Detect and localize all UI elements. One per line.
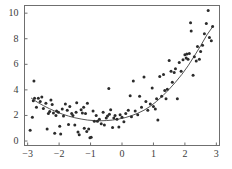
data-point — [152, 105, 155, 108]
data-point — [196, 45, 199, 48]
data-point — [211, 25, 214, 28]
data-point — [151, 86, 154, 89]
data-point — [39, 100, 42, 103]
data-point — [85, 130, 88, 133]
figure: −3−2−10123 0246810 — [0, 0, 232, 169]
data-point — [154, 108, 157, 111]
data-point — [75, 111, 78, 114]
data-point — [198, 58, 201, 61]
data-point — [67, 123, 70, 126]
data-point — [107, 87, 110, 90]
data-point — [68, 105, 71, 108]
data-point — [146, 109, 149, 112]
x-tick-label: −1 — [79, 149, 103, 159]
data-point — [102, 111, 105, 114]
data-point — [178, 61, 181, 64]
data-point — [95, 114, 98, 117]
data-point — [112, 117, 115, 120]
data-point — [37, 97, 40, 100]
data-point — [170, 70, 173, 73]
data-point — [66, 109, 69, 112]
data-point — [122, 120, 125, 123]
data-point — [87, 127, 90, 130]
data-point — [76, 131, 79, 134]
data-point — [57, 111, 60, 114]
data-point — [195, 60, 198, 63]
data-point — [92, 109, 95, 112]
y-tick-label: 6 — [0, 59, 19, 69]
data-point — [84, 112, 87, 115]
x-tick-label: −2 — [47, 149, 71, 159]
data-point — [124, 112, 127, 115]
data-point — [31, 116, 34, 119]
data-point — [40, 95, 43, 98]
y-tick-label: 2 — [0, 110, 19, 120]
data-point — [98, 118, 101, 121]
data-point — [117, 125, 120, 128]
x-tick-label: 0 — [110, 149, 134, 159]
data-point — [173, 71, 176, 74]
data-point — [185, 53, 188, 56]
y-tick-label: 4 — [0, 85, 19, 95]
y-tick-label: 0 — [0, 136, 19, 146]
data-point — [48, 110, 51, 113]
data-point — [81, 111, 84, 114]
data-point — [193, 55, 196, 58]
x-tick-label: 1 — [141, 149, 165, 159]
data-point — [208, 36, 211, 39]
data-point — [201, 44, 204, 47]
data-point — [53, 132, 56, 135]
data-point — [80, 108, 83, 111]
data-point — [121, 116, 124, 119]
data-point — [127, 109, 130, 112]
data-point — [166, 88, 169, 91]
data-point — [180, 70, 183, 73]
data-point — [90, 136, 93, 139]
data-point — [51, 103, 54, 106]
plot-frame — [25, 6, 220, 146]
data-point — [149, 102, 152, 105]
data-point — [136, 113, 139, 116]
data-point — [138, 95, 141, 98]
data-point — [210, 39, 213, 42]
data-point — [158, 75, 161, 78]
data-point — [33, 97, 36, 100]
data-point — [52, 111, 55, 114]
data-point — [199, 50, 202, 53]
data-point — [86, 102, 89, 105]
data-point — [73, 124, 76, 127]
data-point — [155, 97, 158, 100]
data-point — [111, 126, 114, 129]
data-point — [143, 76, 146, 79]
data-point — [100, 122, 103, 125]
data-point — [203, 32, 206, 35]
data-point — [103, 124, 106, 127]
scatter-plot — [0, 0, 232, 169]
data-point — [119, 113, 122, 116]
data-point — [132, 79, 135, 82]
x-tick-label: 3 — [204, 149, 228, 159]
data-point — [160, 95, 163, 98]
data-point — [59, 132, 62, 135]
data-point — [58, 125, 61, 128]
data-point — [82, 106, 85, 109]
data-point — [32, 99, 35, 102]
data-point — [156, 118, 159, 121]
data-point — [188, 52, 191, 55]
data-point — [44, 102, 47, 105]
data-point — [187, 58, 190, 61]
data-point — [64, 102, 67, 105]
data-point — [109, 108, 112, 111]
x-tick-label: −3 — [16, 149, 40, 159]
data-point — [129, 94, 132, 97]
data-point — [83, 127, 86, 130]
data-point — [71, 114, 74, 117]
data-point — [165, 97, 168, 100]
data-point — [42, 107, 45, 110]
data-point — [174, 67, 177, 70]
data-point — [182, 58, 185, 61]
data-point — [46, 127, 49, 130]
data-point — [168, 59, 171, 62]
data-point — [32, 79, 35, 82]
data-point — [134, 109, 137, 112]
